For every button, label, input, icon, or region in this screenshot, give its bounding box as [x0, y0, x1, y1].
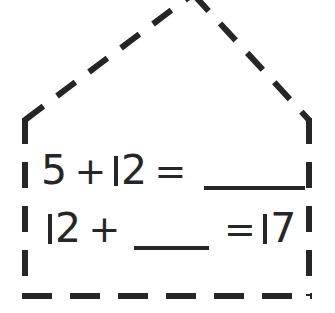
- answer-blank-addend[interactable]: [134, 246, 209, 250]
- worksheet-canvas: 5 + 2 = 2 + = 7: [0, 0, 335, 313]
- equals-sign-1: =: [155, 149, 187, 193]
- digit-one-bar-2: [48, 214, 52, 244]
- plus-sign-1: +: [75, 149, 107, 193]
- digit-one-bar-3: [263, 214, 267, 244]
- answer-blank-sum[interactable]: [204, 186, 305, 190]
- equation-row-2: 2 + = 7: [48, 204, 297, 252]
- digit-two-1: 2: [121, 146, 148, 194]
- plus-sign-2: +: [89, 207, 121, 251]
- equations-container: 5 + 2 = 2 + = 7: [0, 0, 335, 313]
- equation-row-1: 5 + 2 =: [41, 146, 305, 194]
- equals-sign-2: =: [224, 207, 256, 251]
- operand-five: 5: [41, 146, 68, 194]
- digit-one-bar-1: [114, 156, 118, 186]
- digit-two-2: 2: [55, 204, 82, 252]
- digit-seven: 7: [270, 204, 297, 252]
